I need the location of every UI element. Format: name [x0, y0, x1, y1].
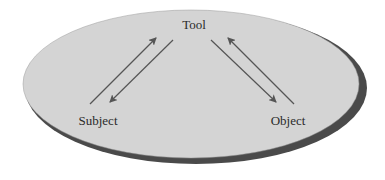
node-label-subject: Subject — [79, 113, 118, 128]
node-label-object: Object — [271, 113, 306, 128]
diagram-canvas: Tool Subject Object — [0, 0, 385, 180]
node-label-tool: Tool — [182, 17, 206, 32]
ellipse-background — [23, 10, 359, 158]
